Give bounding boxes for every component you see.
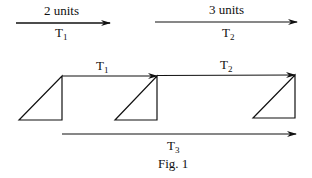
triangle-3 xyxy=(253,75,295,118)
t2-length-label: 3 units xyxy=(209,3,244,16)
t1-top-label: T1 xyxy=(55,26,67,42)
figure-caption: Fig. 1 xyxy=(158,157,188,170)
chain-t1-label: T1 xyxy=(96,59,108,75)
chain-t2-label: T2 xyxy=(220,58,232,74)
t2-top-label: T2 xyxy=(222,26,234,42)
vector-diagram xyxy=(0,0,312,178)
resultant-t3-label: T3 xyxy=(167,139,179,155)
t1-length-label: 2 units xyxy=(44,4,79,17)
chain-t2-arrow xyxy=(157,75,295,76)
triangle-2 xyxy=(115,76,157,120)
triangle-1 xyxy=(19,76,62,120)
